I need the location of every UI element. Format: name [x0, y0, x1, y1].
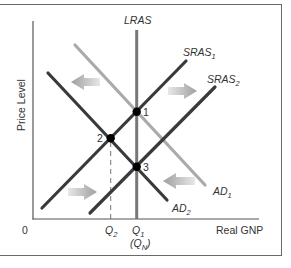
- arrow-left-lower-icon: [163, 173, 195, 189]
- sras2-label: SRAS2: [207, 73, 241, 88]
- point-2-label: 2: [97, 132, 103, 144]
- equilibrium-point-3: [133, 163, 141, 171]
- arrow-right-lower-icon: [68, 184, 97, 200]
- ad1-label: AD1: [212, 185, 232, 200]
- sras2-curve: [90, 87, 215, 213]
- point-1-label: 1: [143, 106, 149, 118]
- lras-label: LRAS: [124, 14, 151, 26]
- origin-label: 0: [22, 224, 28, 236]
- ad-as-diagram: 1 2 3 LRAS SRAS1 SRAS2 AD1 AD2 0 Q2 Q1 (…: [0, 0, 291, 268]
- arrow-left-upper-icon: [71, 74, 100, 90]
- arrow-right-upper-icon: [168, 83, 197, 99]
- sras1-curve: [42, 61, 186, 208]
- ad2-label: AD2: [171, 202, 192, 217]
- y-axis-label: Price Level: [15, 79, 27, 131]
- qn-tick-label: (QN): [130, 237, 151, 252]
- q2-tick-label: Q2: [105, 224, 118, 239]
- sras1-label: SRAS1: [183, 46, 216, 61]
- equilibrium-point-2: [107, 134, 115, 142]
- equilibrium-point-1: [133, 108, 141, 116]
- point-3-label: 3: [143, 161, 149, 173]
- x-axis-label: Real GNP: [216, 224, 263, 236]
